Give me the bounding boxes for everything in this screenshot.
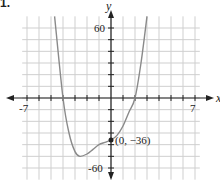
y-axis (108, 10, 114, 180)
x-tick-label-max: 7 (190, 102, 196, 114)
y-axis-label: y (105, 0, 112, 13)
y-tick-label-max: 60 (94, 22, 106, 34)
y-axis-down-arrow-icon (108, 172, 114, 180)
x-axis-label: x (215, 91, 220, 105)
graph: x y -7 7 60 -60 (0, −36) (0, 0, 220, 180)
y-intercept-point (109, 138, 114, 143)
x-axis-right-arrow-icon (206, 95, 214, 101)
x-tick-label-min: -7 (19, 102, 29, 114)
y-intercept-annotation: (0, −36) (115, 134, 151, 147)
x-axis-left-arrow-icon (6, 95, 14, 101)
y-tick-label-min: -60 (88, 162, 103, 174)
